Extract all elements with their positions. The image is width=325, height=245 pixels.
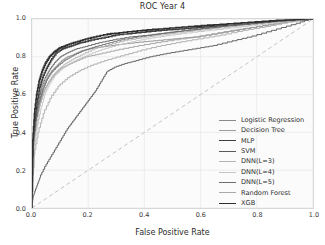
y-axis-tick-label: 0.0 bbox=[4, 205, 26, 213]
chart-title: ROC Year 4 bbox=[0, 2, 325, 11]
legend-swatch-line-icon bbox=[219, 203, 236, 204]
y-axis-tick-label: 0.8 bbox=[4, 52, 26, 60]
x-axis-tick-label: 0.6 bbox=[186, 211, 216, 219]
legend-item-svm[interactable]: SVM bbox=[215, 146, 323, 156]
legend-item-dnn-l-3[interactable]: DNN(L=3) bbox=[215, 157, 323, 167]
roc-chart-figure: ROC Year 4 True Positive Rate False Posi… bbox=[0, 0, 325, 245]
legend-swatch-line-icon bbox=[219, 151, 236, 152]
legend-swatch-line-icon bbox=[219, 182, 236, 183]
legend-item-label: DNN(L=4) bbox=[241, 169, 274, 176]
legend-item-label: DNN(L=5) bbox=[241, 179, 274, 186]
legend-swatch-line-icon bbox=[219, 172, 236, 173]
legend-swatch-line-icon bbox=[219, 192, 236, 193]
y-axis-tick-label: 1.0 bbox=[4, 14, 26, 22]
legend-item-xgb[interactable]: XGB bbox=[215, 198, 323, 208]
legend-item-mlp[interactable]: MLP bbox=[215, 136, 323, 146]
legend-item-label: SVM bbox=[241, 148, 255, 155]
legend-item-random-forest[interactable]: Random Forest bbox=[215, 188, 323, 198]
legend-item-label: Random Forest bbox=[241, 190, 291, 197]
legend-item-dnn-l-5[interactable]: DNN(L=5) bbox=[215, 177, 323, 187]
legend-item-label: DNN(L=3) bbox=[241, 158, 274, 165]
legend-swatch-line-icon bbox=[219, 130, 236, 131]
legend-item-label: MLP bbox=[241, 138, 254, 145]
chart-legend: Logistic RegressionDecision TreeMLPSVMDN… bbox=[215, 113, 323, 211]
y-axis-tick-label: 0.6 bbox=[4, 90, 26, 98]
x-axis-label: False Positive Rate bbox=[31, 228, 314, 237]
x-axis-tick-label: 1.0 bbox=[299, 211, 325, 219]
legend-item-label: Decision Tree bbox=[241, 127, 285, 134]
legend-swatch-line-icon bbox=[219, 140, 236, 141]
legend-swatch-line-icon bbox=[219, 161, 236, 162]
legend-item-label: Logistic Regression bbox=[241, 117, 304, 124]
legend-item-decision-tree[interactable]: Decision Tree bbox=[215, 125, 323, 135]
legend-swatch-line-icon bbox=[219, 120, 236, 121]
x-axis-tick-label: 0.2 bbox=[73, 211, 103, 219]
legend-item-logistic-regression[interactable]: Logistic Regression bbox=[215, 115, 323, 125]
legend-item-dnn-l-4[interactable]: DNN(L=4) bbox=[215, 167, 323, 177]
x-axis-tick-label: 0.4 bbox=[129, 211, 159, 219]
y-axis-tick-label: 0.2 bbox=[4, 167, 26, 175]
legend-item-label: XGB bbox=[241, 200, 255, 207]
y-axis-tick-label: 0.4 bbox=[4, 129, 26, 137]
x-axis-tick-label: 0.8 bbox=[242, 211, 272, 219]
